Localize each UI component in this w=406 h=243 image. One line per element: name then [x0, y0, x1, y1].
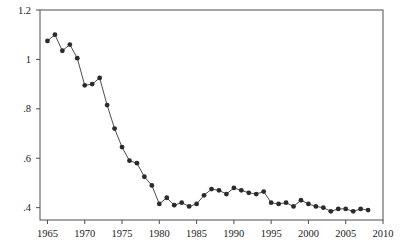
y-tick-label: .8 — [23, 103, 31, 114]
data-point — [97, 76, 102, 81]
x-tick-label: 2005 — [335, 228, 356, 239]
data-point — [217, 188, 222, 193]
data-point — [172, 203, 177, 208]
data-point — [112, 126, 117, 131]
data-point — [343, 206, 348, 211]
data-point — [75, 56, 80, 61]
data-point — [90, 82, 95, 87]
chart-background — [0, 0, 406, 243]
data-point — [60, 48, 65, 53]
data-point — [194, 202, 199, 207]
x-tick-label: 1980 — [149, 228, 170, 239]
data-point — [105, 103, 110, 108]
x-tick-label: 1975 — [112, 228, 133, 239]
data-point — [239, 188, 244, 193]
data-point — [306, 202, 311, 207]
x-tick-label: 2010 — [373, 228, 394, 239]
y-tick-label: .4 — [23, 202, 32, 213]
x-tick-label: 1965 — [37, 228, 58, 239]
data-point — [202, 193, 207, 198]
data-point — [149, 183, 154, 188]
data-point — [231, 185, 236, 190]
data-point — [276, 202, 281, 207]
data-point — [224, 192, 229, 197]
y-tick-label: 1.2 — [18, 5, 31, 16]
x-tick-label: 1985 — [186, 228, 207, 239]
data-point — [299, 198, 304, 203]
data-point — [135, 161, 140, 166]
x-tick-label: 2000 — [298, 228, 319, 239]
data-point — [254, 192, 259, 197]
data-point — [142, 174, 147, 179]
data-point — [209, 187, 214, 192]
data-point — [120, 145, 125, 150]
y-tick-label: .6 — [23, 153, 31, 164]
data-point — [261, 189, 266, 194]
data-point — [269, 200, 274, 205]
data-point — [82, 83, 87, 88]
y-tick-label: 1 — [26, 54, 31, 65]
data-point — [179, 200, 184, 205]
data-point — [164, 195, 169, 200]
data-point — [45, 38, 50, 43]
data-point — [321, 205, 326, 210]
data-point — [358, 206, 363, 211]
data-point — [284, 200, 289, 205]
data-point — [246, 190, 251, 195]
data-point — [127, 158, 132, 163]
data-point — [313, 204, 318, 209]
line-chart-plot: .4.6.811.2 19651970197519801985199019952… — [0, 0, 406, 243]
data-point — [157, 202, 162, 207]
data-point — [328, 209, 333, 214]
x-tick-label: 1990 — [223, 228, 244, 239]
x-tick-label: 1970 — [74, 228, 95, 239]
data-point — [53, 32, 58, 37]
data-point — [67, 42, 72, 47]
data-point — [351, 209, 356, 214]
data-point — [366, 208, 371, 213]
chart-figure: Transfer taxes/total tax revenues .4.6.8… — [0, 0, 406, 243]
data-point — [336, 206, 341, 211]
data-point — [187, 204, 192, 209]
data-point — [291, 204, 296, 209]
x-tick-label: 1995 — [261, 228, 282, 239]
